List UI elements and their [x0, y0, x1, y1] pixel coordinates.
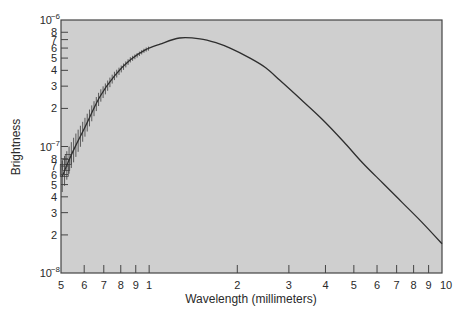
chart: 5678912345678910 10−8234567810−723456781…: [0, 0, 465, 321]
y-tick-label: 3: [51, 207, 57, 219]
y-axis-title: Brightness: [9, 119, 23, 176]
x-tick-label: 1: [146, 279, 152, 291]
x-tick-label: 3: [286, 279, 292, 291]
y-tick-label: 8: [51, 153, 57, 165]
x-tick-label: 9: [133, 279, 139, 291]
y-tick-label: 2: [51, 102, 57, 114]
x-tick-label: 8: [118, 279, 124, 291]
x-tick-label: 6: [81, 279, 87, 291]
x-axis-title: Wavelength (millimeters): [185, 292, 317, 306]
x-tick-label: 2: [234, 279, 240, 291]
y-tick-label: 3: [51, 80, 57, 92]
y-tick-label: 4: [51, 191, 57, 203]
x-tick-label: 5: [351, 279, 357, 291]
y-tick-label: 8: [51, 26, 57, 38]
x-tick-label: 4: [322, 279, 328, 291]
x-tick-label: 6: [374, 279, 380, 291]
x-tick-label: 5: [58, 279, 64, 291]
x-tick-label: 10: [440, 279, 452, 291]
y-tick-exponent: −7: [51, 139, 61, 148]
x-tick-label: 9: [426, 279, 432, 291]
y-tick-exponent: −6: [51, 12, 61, 21]
plot-area: [61, 20, 442, 273]
y-tick-label: 2: [51, 229, 57, 241]
x-tick-label: 8: [411, 279, 417, 291]
y-tick-label: 4: [51, 64, 57, 76]
y-tick-exponent: −8: [51, 265, 61, 274]
x-tick-label: 7: [394, 279, 400, 291]
x-tick-label: 7: [101, 279, 107, 291]
